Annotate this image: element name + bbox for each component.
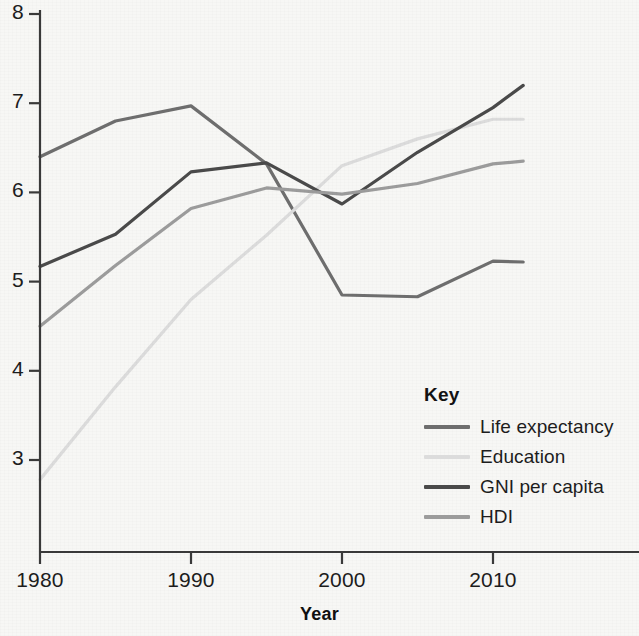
x-axis-tick-label: 2010 xyxy=(453,568,533,592)
y-axis-tick-label: 4 xyxy=(0,357,24,381)
legend-item: Education xyxy=(424,442,630,472)
y-axis-tick-label: 7 xyxy=(0,89,24,113)
legend-item-label: Life expectancy xyxy=(480,416,614,438)
legend-swatch-icon xyxy=(424,485,470,489)
x-axis-title: Year xyxy=(0,604,639,625)
y-axis-tick-label: 5 xyxy=(0,268,24,292)
y-axis-tick-label: 3 xyxy=(0,446,24,470)
line-chart: 345678 1980199020002010 Year Key Life ex… xyxy=(0,0,639,636)
legend-swatch-icon xyxy=(424,455,470,459)
series-line xyxy=(40,161,523,326)
legend-item: HDI xyxy=(424,502,630,532)
y-axis-tick-label: 6 xyxy=(0,178,24,202)
legend-item-label: HDI xyxy=(480,506,513,528)
legend-swatch-icon xyxy=(424,425,470,429)
x-axis-tick-label: 1990 xyxy=(151,568,231,592)
legend: Key Life expectancyEducationGNI per capi… xyxy=(424,384,630,532)
legend-entries: Life expectancyEducationGNI per capitaHD… xyxy=(424,412,630,532)
legend-item-label: Education xyxy=(480,446,565,468)
legend-item: Life expectancy xyxy=(424,412,630,442)
x-axis-tick-label: 2000 xyxy=(302,568,382,592)
legend-title: Key xyxy=(424,384,630,406)
plot-area xyxy=(0,0,639,636)
legend-item: GNI per capita xyxy=(424,472,630,502)
legend-item-label: GNI per capita xyxy=(480,476,604,498)
x-axis-tick-label: 1980 xyxy=(0,568,80,592)
y-axis-tick-label: 8 xyxy=(0,0,24,24)
legend-swatch-icon xyxy=(424,515,470,519)
